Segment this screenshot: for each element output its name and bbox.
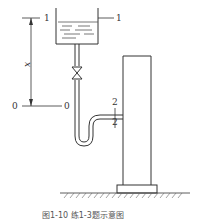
figure-caption: 图1-10 练1-3题示意图	[42, 210, 124, 219]
section0-left-label: 0	[12, 101, 18, 111]
valve-icon	[72, 67, 82, 79]
ground-hatch	[64, 193, 182, 198]
siphon-diagram: 1 1 x 0 0 2 2	[0, 0, 213, 219]
section1-right-label: 1	[116, 13, 122, 23]
column	[117, 56, 157, 193]
section2-bottom-label: 2	[112, 117, 118, 127]
section2-top-label: 2	[112, 97, 118, 107]
arrow-down-icon	[29, 99, 33, 106]
arrow-up-icon	[29, 18, 33, 25]
water-surface	[58, 22, 98, 38]
section0-right-label: 0	[64, 101, 70, 111]
height-label: x	[23, 62, 33, 67]
section1-left-label: 1	[44, 13, 50, 23]
pipe	[75, 44, 123, 146]
